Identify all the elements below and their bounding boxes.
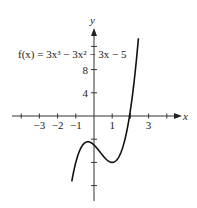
- x-tick-label: 3: [146, 119, 152, 131]
- y-tick-label: 8: [83, 64, 89, 76]
- y-tick-label: 4: [83, 87, 89, 99]
- function-label: f(x) = 3x³ − 3x² − 3x − 5: [18, 48, 127, 61]
- x-tick-label: 1: [109, 119, 115, 131]
- x-tick-label: −2: [52, 119, 64, 131]
- x-tick-label: −3: [34, 119, 46, 131]
- y-axis-arrow-icon: [91, 28, 97, 36]
- y-axis-label: y: [89, 14, 95, 26]
- function-graph: −3−2−11348 f(x) = 3x³ − 3x² − 3x − 5 y x: [0, 0, 197, 208]
- x-axis-label: x: [182, 110, 188, 122]
- x-axis-arrow-icon: [174, 113, 182, 119]
- x-tick-label: −1: [70, 119, 82, 131]
